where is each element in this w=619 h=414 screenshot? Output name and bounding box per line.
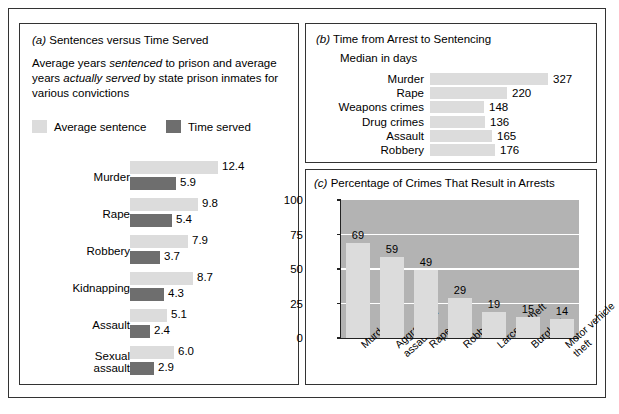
bar-value-label: 3.7 <box>164 250 180 263</box>
bar-time-served <box>130 251 160 264</box>
panel-a-sentences-versus-time-served: (a) Sentences versus Time Served Average… <box>19 23 299 385</box>
gridline <box>341 268 579 270</box>
panel-a-subtitle-part4: by state prison inmates <box>140 72 261 84</box>
panel-a-plot-area: Murder12.45.9Rape9.85.4Robbery7.93.7Kidn… <box>20 160 298 382</box>
bar-value-label: 5.9 <box>180 176 196 189</box>
category-label: Kidnapping <box>40 281 130 294</box>
bar-value-label: 9.8 <box>202 197 218 210</box>
bar-value-label: 327 <box>553 72 572 86</box>
figure-outer-frame: (a) Sentences versus Time Served Average… <box>8 8 606 398</box>
bar-group: Sexualassault6.02.9 <box>20 345 298 378</box>
category-label: Rape <box>40 207 130 220</box>
bar-row: Assault165 <box>306 129 596 143</box>
bar-group: Kidnapping8.74.3 <box>20 271 298 304</box>
bar-value-label: 2.4 <box>154 324 170 337</box>
bar-value-label: 15 <box>516 304 540 315</box>
bar-row: Robbery176 <box>306 143 596 157</box>
bar-value-label: 5.4 <box>176 213 192 226</box>
panel-b-plot-area: Murder327Rape220Weapons crimes148Drug cr… <box>306 72 596 158</box>
bar-value-label: 59 <box>380 244 404 255</box>
bar-time-served <box>130 362 154 375</box>
bar-group: Robbery7.93.7 <box>20 234 298 267</box>
panel-a-subtitle-part3: years <box>32 72 63 84</box>
legend-label: Time served <box>188 121 251 133</box>
panel-a-subtitle-part2: to prison and average <box>162 57 276 69</box>
bar-median-days <box>430 130 492 142</box>
bar-value-label: 148 <box>489 100 508 114</box>
category-label: Weapons crimes <box>306 100 424 114</box>
panel-c-tag: (c) <box>314 177 327 189</box>
category-label: Assault <box>40 318 130 331</box>
panel-b-time-from-arrest-to-sentencing: (b) Time from Arrest to Sentencing Media… <box>305 23 597 163</box>
bar-average-sentence <box>130 272 193 285</box>
panel-a-title: (a) Sentences versus Time Served <box>32 34 208 46</box>
bar-row: Rape220 <box>306 86 596 100</box>
bar-average-sentence <box>130 235 188 248</box>
panel-a-subtitle-part1: Average years <box>32 57 109 69</box>
category-label: Drug crimes <box>306 115 424 129</box>
panel-a-tag: (a) <box>32 34 46 46</box>
y-axis-tick-label: 0 <box>277 333 303 344</box>
bar-median-days <box>430 101 484 113</box>
bar-median-days <box>430 87 507 99</box>
legend-item-average-sentence: Average sentence <box>32 120 147 133</box>
bar-value-label: 4.3 <box>168 287 184 300</box>
bar-value-label: 29 <box>448 285 472 296</box>
panel-c-title-text: Percentage of Crimes That Result in Arre… <box>331 177 555 189</box>
category-label: Robbery <box>40 244 130 257</box>
bar-value-label: 14 <box>550 306 574 317</box>
bar-group: Rape9.85.4 <box>20 197 298 230</box>
panel-a-subtitle-emphasis-sentenced: sentenced <box>109 57 162 69</box>
panel-b-title: (b) Time from Arrest to Sentencing <box>316 33 491 45</box>
legend-label: Average sentence <box>54 121 147 133</box>
panel-a-subtitle-emphasis-served: actually served <box>63 72 140 84</box>
bar-median-days <box>430 73 548 85</box>
bar-average-sentence <box>130 198 198 211</box>
bar-time-served <box>130 288 164 301</box>
y-axis-tick-label: 100 <box>277 195 303 206</box>
bar-value-label: 136 <box>490 115 509 129</box>
gridline <box>341 234 579 236</box>
bar-median-days <box>430 116 485 128</box>
bar <box>414 270 438 338</box>
bar <box>380 257 404 338</box>
bar <box>346 243 370 338</box>
bar-value-label: 165 <box>497 129 516 143</box>
bar-value-label: 176 <box>500 143 519 157</box>
bar-group: Murder12.45.9 <box>20 160 298 193</box>
legend-item-time-served: Time served <box>166 120 251 133</box>
category-label: Murder <box>306 72 424 86</box>
bar-value-label: 8.7 <box>197 271 213 284</box>
panel-c-plot-area: 025507510069Murder59Aggravatedassault49R… <box>340 200 579 339</box>
panel-b-title-text: Time from Arrest to Sentencing <box>333 33 491 45</box>
bar-row: Murder327 <box>306 72 596 86</box>
y-axis-tick-mark <box>337 268 341 269</box>
bar-value-label: 5.1 <box>171 308 187 321</box>
bar-value-label: 19 <box>482 299 506 310</box>
bar-average-sentence <box>130 309 167 322</box>
legend-swatch-icon <box>32 120 47 133</box>
bar-group: Assault5.12.4 <box>20 308 298 341</box>
bar-value-label: 49 <box>414 257 438 268</box>
panel-b-tag: (b) <box>316 33 330 45</box>
y-axis-tick-label: 75 <box>277 230 303 241</box>
bar-average-sentence <box>130 161 218 174</box>
bar-time-served <box>130 325 150 338</box>
y-axis-tick-mark <box>337 303 341 304</box>
bar-average-sentence <box>130 346 174 359</box>
category-label: Rape <box>306 86 424 100</box>
bar-value-label: 220 <box>512 86 531 100</box>
bar-row: Weapons crimes148 <box>306 100 596 114</box>
panel-a-title-text: Sentences versus Time Served <box>49 34 208 46</box>
legend-swatch-icon <box>166 120 181 133</box>
panel-c-percentage-of-crimes-that-result-in-arrests: (c) Percentage of Crimes That Result in … <box>305 169 597 385</box>
category-label: Assault <box>306 129 424 143</box>
bar-time-served <box>130 214 172 227</box>
y-axis-tick-label: 25 <box>277 299 303 310</box>
y-axis-tick-mark <box>337 337 341 338</box>
y-axis-tick-mark <box>337 234 341 235</box>
y-axis-tick-mark <box>337 199 341 200</box>
bar-value-label: 69 <box>346 230 370 241</box>
panel-a-subtitle: Average years sentenced to prison and av… <box>32 56 284 101</box>
bar-value-label: 6.0 <box>178 345 194 358</box>
